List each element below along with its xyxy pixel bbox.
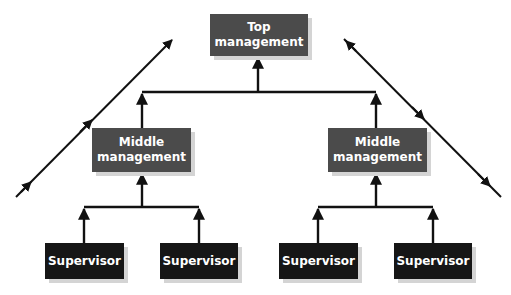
supervisor-label: Supervisor bbox=[162, 254, 235, 269]
middle-left-line2: management bbox=[97, 150, 186, 165]
middle-management-right-box: Middle management bbox=[328, 128, 427, 172]
supervisor-box-2: Supervisor bbox=[160, 243, 238, 279]
middle-right-line1: Middle bbox=[333, 135, 422, 150]
supervisor-box-1: Supervisor bbox=[45, 243, 124, 279]
left-diagonal-arrowhead-low bbox=[21, 182, 31, 192]
supervisor-label: Supervisor bbox=[282, 254, 355, 269]
right-diagonal-arrowhead-mid bbox=[412, 107, 424, 119]
left-diagonal-arrow bbox=[16, 40, 172, 197]
supervisor-box-4: Supervisor bbox=[394, 243, 472, 279]
middle-left-line1: Middle bbox=[97, 135, 186, 150]
middle-management-left-box: Middle management bbox=[92, 128, 191, 172]
supervisor-label: Supervisor bbox=[48, 254, 121, 269]
top-management-line2: management bbox=[215, 35, 304, 50]
right-diagonal-arrowhead-top bbox=[346, 41, 356, 51]
top-management-box: Top management bbox=[210, 14, 308, 56]
supervisor-label: Supervisor bbox=[396, 254, 469, 269]
supervisor-box-3: Supervisor bbox=[279, 243, 358, 279]
top-management-line1: Top bbox=[215, 20, 304, 35]
right-diagonal-arrowhead-low bbox=[478, 174, 490, 186]
middle-right-line2: management bbox=[333, 150, 422, 165]
left-diagonal-arrowhead-mid bbox=[80, 120, 92, 132]
